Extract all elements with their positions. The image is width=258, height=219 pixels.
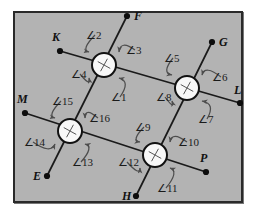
point-label-L: L [234, 84, 241, 96]
figure-canvas: FKGLMEPH ∠1∠2∠3∠4∠5∠6∠7∠8∠9∠10∠11∠12∠13∠… [0, 0, 258, 219]
endpoint-dot-K [57, 48, 63, 54]
point-label-E: E [33, 170, 41, 182]
point-label-P: P [200, 152, 207, 164]
intersection-node-top-right [175, 76, 199, 100]
angle-label-a9: ∠9 [135, 122, 151, 133]
intersection-node-bottom-right [143, 143, 167, 167]
endpoint-dot-P [203, 169, 209, 175]
point-label-K: K [52, 31, 60, 43]
endpoint-dot-F [124, 13, 130, 19]
point-label-H: H [122, 190, 131, 202]
angle-label-a7: ∠7 [198, 114, 214, 125]
point-label-G: G [219, 36, 228, 48]
angle-label-a8: ∠8 [156, 92, 172, 103]
angle-label-a13: ∠13 [72, 157, 93, 168]
diagram-svg [0, 0, 258, 219]
angle-label-a6: ∠6 [212, 72, 228, 83]
angle-label-a10: ∠10 [178, 137, 199, 148]
endpoint-dot-H [133, 193, 139, 199]
angle-label-a5: ∠5 [164, 53, 180, 64]
point-label-M: M [17, 93, 28, 105]
angle-label-a15: ∠15 [52, 96, 73, 107]
angle-label-a16: ∠16 [89, 113, 110, 124]
angle-label-a2: ∠2 [86, 30, 102, 41]
angle-label-a4: ∠4 [71, 69, 87, 80]
angle-label-a14: ∠14 [24, 137, 45, 148]
angle-label-a11: ∠11 [157, 183, 178, 194]
endpoint-dot-G [209, 39, 215, 45]
point-label-F: F [134, 10, 142, 22]
endpoint-dot-E [44, 173, 50, 179]
angle-label-a1: ∠1 [111, 92, 127, 103]
intersection-node-top-left [92, 53, 116, 77]
intersection-node-bottom-left [58, 119, 82, 143]
endpoint-dot-L [237, 100, 243, 106]
endpoint-dot-M [22, 110, 28, 116]
angle-label-a3: ∠3 [126, 45, 142, 56]
angle-label-a12: ∠12 [118, 157, 139, 168]
